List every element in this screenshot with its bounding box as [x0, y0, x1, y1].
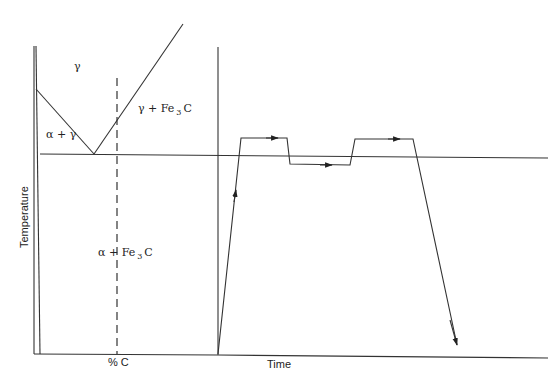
- alpha-fe3c-region-label: α + Fe3C: [98, 246, 153, 261]
- carbon-axis: [34, 354, 218, 355]
- phase-diagram: γ α + γ γ + Fe3C α + Fe3C % C Temperatur…: [18, 24, 548, 368]
- a3-line: [36, 89, 94, 154]
- temperature-axis-label: Temperature: [18, 186, 30, 248]
- heat-treatment-path: [218, 138, 457, 354]
- heat-treatment-diagram: γ α + γ γ + Fe3C α + Fe3C % C Temperatur…: [0, 0, 548, 386]
- carbon-axis-label: % C: [108, 356, 129, 368]
- heat-treatment-plot: Time: [218, 47, 548, 370]
- alpha-gamma-region-label: α + γ: [46, 128, 77, 141]
- acm-line: [94, 24, 183, 154]
- time-axis-label: Time: [267, 358, 291, 370]
- gamma-fe3c-region-label: γ + Fe3C: [138, 102, 192, 117]
- quench-arrow-icon: [450, 320, 457, 345]
- a1-line: [40, 154, 548, 158]
- gamma-region-label: γ: [74, 60, 81, 73]
